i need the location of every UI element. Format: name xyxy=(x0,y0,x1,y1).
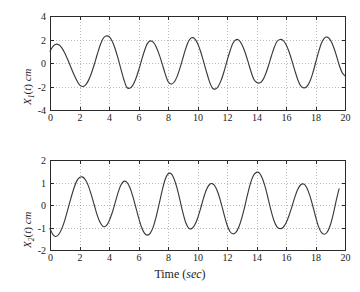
x-tick-label: 2 xyxy=(78,252,83,263)
x-tick-label: 2 xyxy=(78,112,83,123)
x-tick-label: 18 xyxy=(311,112,321,123)
x-axis-label-unit: sec xyxy=(186,267,201,281)
data-curve-x2-vs-time xyxy=(50,172,339,236)
y-tick-label: 2 xyxy=(41,155,46,166)
y-tick-label: 0 xyxy=(41,58,46,69)
y-tick-label: 4 xyxy=(41,11,46,22)
x-tick-label: 16 xyxy=(282,252,292,263)
x-tick-label: 8 xyxy=(166,112,171,123)
x-axis-label-text: Time xyxy=(154,267,179,281)
y-axis-label-x1: X1(t) cm xyxy=(22,69,36,105)
x-tick-label: 6 xyxy=(137,252,142,263)
x-tick-label: 6 xyxy=(137,112,142,123)
x-tick-label: 18 xyxy=(311,252,321,263)
x-tick-label: 0 xyxy=(48,252,53,263)
x-tick-label: 10 xyxy=(193,112,203,123)
figure-container: 02468101214161820-4-2024 X1(t) cm 024681… xyxy=(0,0,360,292)
x-tick-label: 20 xyxy=(341,112,351,123)
x-tick-label: 14 xyxy=(252,252,262,263)
y-axis-label-x2: X2(t) cm xyxy=(22,212,36,248)
x-tick-label: 12 xyxy=(223,252,233,263)
y-tick-label: -2 xyxy=(38,82,46,93)
y-tick-label: 1 xyxy=(41,178,46,189)
y-tick-label: -4 xyxy=(38,105,46,116)
x-tick-label: 12 xyxy=(223,112,233,123)
x-tick-label: 14 xyxy=(252,112,262,123)
x-tick-label: 4 xyxy=(107,112,112,123)
x-axis-label: Time (sec) xyxy=(0,268,360,280)
x-tick-label: 4 xyxy=(107,252,112,263)
x-tick-label: 16 xyxy=(282,112,292,123)
x-tick-label: 8 xyxy=(166,252,171,263)
y-tick-label: -2 xyxy=(38,245,46,256)
x-tick-label: 0 xyxy=(48,112,53,123)
y-tick-label: 2 xyxy=(41,35,46,46)
x-axis-label-paren-close: ) xyxy=(202,267,206,281)
data-curve-x1-vs-time xyxy=(50,36,345,89)
y-tick-label: -1 xyxy=(38,223,46,234)
y-tick-label: 0 xyxy=(41,200,46,211)
x-tick-label: 20 xyxy=(341,252,351,263)
chart-panel-x1: 02468101214161820-4-2024 X1(t) cm xyxy=(0,0,360,146)
x-tick-label: 10 xyxy=(193,252,203,263)
plot-area-x1: 02468101214161820-4-2024 xyxy=(0,0,360,146)
